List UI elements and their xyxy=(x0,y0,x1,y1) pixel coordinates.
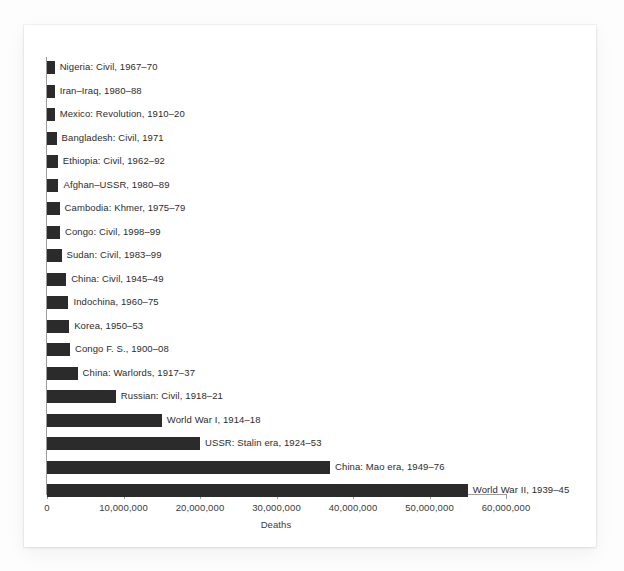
bar-row: Bangladesh: Civil, 1971 xyxy=(47,132,297,145)
bar-label: Sudan: Civil, 1983–99 xyxy=(67,248,162,262)
bar-label: Russian: Civil, 1918–21 xyxy=(121,389,223,403)
bar-row: Russian: Civil, 1918–21 xyxy=(47,390,356,403)
bar-rect xyxy=(47,226,60,239)
bar-label: Indochina, 1960–75 xyxy=(73,295,158,309)
bar-label: China: Warlords, 1917–37 xyxy=(83,366,195,380)
bar-rect xyxy=(47,132,57,145)
bar-row: Sudan: Civil, 1983–99 xyxy=(47,249,302,262)
bars-layer: Nigeria: Civil, 1967–70Iran–Iraq, 1980–8… xyxy=(24,25,596,547)
bar-label: Congo: Civil, 1998–99 xyxy=(65,225,161,239)
bar-label: Korea, 1950–53 xyxy=(74,319,143,333)
bar-row: Mexico: Revolution, 1910–20 xyxy=(47,108,295,121)
bar-label: Cambodia: Khmer, 1975–79 xyxy=(65,201,186,215)
bar-row: World War II, 1939–45 xyxy=(47,484,624,497)
bar-rect xyxy=(47,320,69,333)
bar-row: World War I, 1914–18 xyxy=(47,414,402,427)
bar-rect xyxy=(47,273,66,286)
bar-row: Congo: Civil, 1998–99 xyxy=(47,226,300,239)
bar-label: Bangladesh: Civil, 1971 xyxy=(62,131,164,145)
bar-label: Congo F. S., 1900–08 xyxy=(75,342,169,356)
bar-rect xyxy=(47,85,55,98)
bar-row: USSR: Stalin era, 1924–53 xyxy=(47,437,440,450)
bar-rect xyxy=(47,61,55,74)
chart-card: 010,000,00020,000,00030,000,00040,000,00… xyxy=(24,25,596,547)
bar-row: Congo F. S., 1900–08 xyxy=(47,343,310,356)
bar-row: Iran–Iraq, 1980–88 xyxy=(47,85,295,98)
bar-label: Ethiopia: Civil, 1962–92 xyxy=(63,154,165,168)
bar-rect xyxy=(47,367,78,380)
bar-label: World War II, 1939–45 xyxy=(473,483,570,497)
bar-label: Nigeria: Civil, 1967–70 xyxy=(60,60,158,74)
bar-row: Korea, 1950–53 xyxy=(47,320,309,333)
bar-row: China: Warlords, 1917–37 xyxy=(47,367,318,380)
bar-label: Afghan–USSR, 1980–89 xyxy=(63,178,169,192)
bar-rect xyxy=(47,437,200,450)
plot-area: 010,000,00020,000,00030,000,00040,000,00… xyxy=(24,25,596,547)
bar-label: China: Mao era, 1949–76 xyxy=(335,460,445,474)
bar-rect xyxy=(47,296,68,309)
bar-rect xyxy=(47,484,468,497)
bar-row: Ethiopia: Civil, 1962–92 xyxy=(47,155,298,168)
bar-label: Iran–Iraq, 1980–88 xyxy=(60,84,142,98)
bar-rect xyxy=(47,414,162,427)
bar-rect xyxy=(47,202,60,215)
bar-rect xyxy=(47,249,62,262)
bar-rect xyxy=(47,108,55,121)
bar-label: World War I, 1914–18 xyxy=(167,413,261,427)
bar-label: China: Civil, 1945–49 xyxy=(71,272,163,286)
bar-row: Nigeria: Civil, 1967–70 xyxy=(47,61,295,74)
bar-rect xyxy=(47,179,58,192)
bar-row: China: Civil, 1945–49 xyxy=(47,273,306,286)
bar-row: China: Mao era, 1949–76 xyxy=(47,461,570,474)
bar-rect xyxy=(47,343,70,356)
figure-page: 010,000,00020,000,00030,000,00040,000,00… xyxy=(0,0,624,571)
bar-rect xyxy=(47,155,58,168)
bar-label: Mexico: Revolution, 1910–20 xyxy=(60,107,185,121)
bar-row: Indochina, 1960–75 xyxy=(47,296,308,309)
bar-rect xyxy=(47,461,330,474)
bar-label: USSR: Stalin era, 1924–53 xyxy=(205,436,322,450)
bar-row: Afghan–USSR, 1980–89 xyxy=(47,179,298,192)
bar-rect xyxy=(47,390,116,403)
bar-row: Cambodia: Khmer, 1975–79 xyxy=(47,202,300,215)
